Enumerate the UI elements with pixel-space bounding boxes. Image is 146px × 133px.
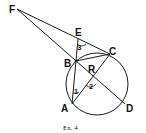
geometry-diagram: F E C B R A D 3 1 2 Ex. 4: [0, 0, 146, 133]
angle-label-3: 3: [77, 43, 82, 52]
label-A: A: [61, 103, 68, 114]
line-FC: [17, 9, 110, 54]
line-AC: [72, 54, 110, 104]
label-F: F: [9, 4, 15, 15]
point-B: [75, 60, 78, 63]
angle-label-1: 1: [74, 88, 78, 95]
label-D: D: [126, 103, 133, 114]
circle: [66, 53, 128, 115]
label-C: C: [109, 46, 116, 57]
label-R: R: [88, 64, 96, 75]
label-B: B: [64, 58, 71, 69]
angle-label-2: 2: [89, 83, 93, 90]
figure-caption: Ex. 4: [63, 124, 78, 132]
label-E: E: [75, 27, 82, 38]
